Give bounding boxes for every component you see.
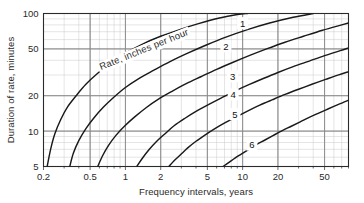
x-tick-label: 0.5 (84, 171, 97, 182)
curve-label-6: 6 (249, 139, 254, 150)
chart-figure: 0.20.5125102050 5102050100 123456 Rate, … (0, 0, 364, 203)
y-tick-label: 100 (23, 8, 39, 19)
y-tick-label: 20 (28, 90, 39, 101)
y-axis-title: Duration of rate, minutes (5, 37, 16, 144)
curve-label-1: 1 (240, 18, 245, 29)
x-tick-label: 0.2 (37, 171, 50, 182)
x-tick-label: 50 (319, 171, 330, 182)
y-tick-label: 5 (33, 161, 38, 172)
curve-label-5: 5 (232, 109, 237, 120)
x-tick-label: 1 (123, 171, 128, 182)
y-tick-label: 50 (28, 43, 39, 54)
y-tick-label: 10 (28, 126, 39, 137)
x-tick-label: 2 (158, 171, 163, 182)
x-axis-title: Frequency intervals, years (139, 186, 253, 197)
x-tick-label: 20 (273, 171, 284, 182)
curve-label-2: 2 (223, 41, 228, 52)
x-tick-label: 10 (237, 171, 248, 182)
chart-canvas: 0.20.5125102050 5102050100 123456 Rate, … (0, 0, 364, 203)
curve-label-4: 4 (231, 89, 236, 100)
x-tick-label: 5 (205, 171, 210, 182)
curve-label-3: 3 (230, 71, 235, 82)
